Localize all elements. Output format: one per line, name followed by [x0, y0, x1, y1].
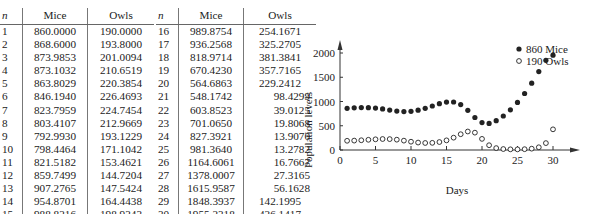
- mice-point: [416, 108, 421, 113]
- mice-point: [437, 101, 442, 106]
- y-axis-label: Population levels: [302, 92, 314, 168]
- day-cell: 29: [156, 195, 179, 208]
- owls-point: [373, 137, 378, 142]
- y-tick-label: 1500: [313, 71, 336, 83]
- legend-mice-label: 860 Mice: [526, 43, 568, 55]
- data-table-days-1-15: n Mice Owls 1860.0000190.00002868.600019…: [0, 8, 154, 214]
- owls-point: [380, 137, 385, 142]
- mice-cell: 981.3640: [179, 143, 244, 156]
- owls-cell: 201.0094: [88, 51, 155, 64]
- table-row: 11821.5182153.4621: [0, 156, 154, 169]
- owls-cell: 144.7204: [88, 169, 155, 182]
- owls-point: [529, 146, 534, 151]
- day-cell: 3: [0, 51, 23, 64]
- table-row: 3873.9853201.0094: [0, 51, 154, 64]
- day-cell: 1: [0, 25, 23, 39]
- mice-point: [494, 118, 499, 123]
- mice-point: [444, 99, 449, 104]
- mice-cell: 873.1032: [23, 64, 88, 77]
- table-row: 7823.7959224.7454: [0, 104, 154, 117]
- table-row: 301955.2318426.1417: [156, 208, 316, 214]
- mice-cell: 846.1940: [23, 90, 88, 103]
- owls-point: [544, 141, 549, 146]
- mice-cell: 827.3921: [179, 130, 244, 143]
- mice-cell: 792.9930: [23, 130, 88, 143]
- x-axis-label: Days: [446, 184, 469, 196]
- owls-point: [402, 138, 407, 143]
- owls-point: [487, 143, 492, 148]
- day-cell: 15: [0, 208, 23, 214]
- owls-point: [437, 140, 442, 145]
- day-cell: 17: [156, 38, 179, 51]
- table-row: 1860.0000190.0000: [0, 25, 154, 39]
- table-row: 15988.8216198.9343: [0, 208, 154, 214]
- mice-point: [472, 115, 477, 120]
- day-cell: 28: [156, 182, 179, 195]
- header-n: n: [0, 8, 23, 25]
- legend-owls-label: 190 Owls: [526, 55, 568, 67]
- mice-point: [373, 106, 378, 111]
- mice-cell: 868.6000: [23, 38, 88, 51]
- mice-point: [487, 121, 492, 126]
- mice-point: [451, 99, 456, 104]
- day-cell: 18: [156, 51, 179, 64]
- data-table-days-16-30: n Mice Owls 16989.8754254.167117936.2568…: [156, 8, 316, 214]
- day-cell: 8: [0, 117, 23, 130]
- mice-cell: 670.4230: [179, 64, 244, 77]
- owls-cell: 164.4438: [88, 195, 155, 208]
- day-cell: 14: [0, 195, 23, 208]
- legend: 860 Mice 190 Owls: [516, 43, 568, 67]
- header-n: n: [156, 8, 179, 25]
- day-cell: 6: [0, 90, 23, 103]
- mice-point: [401, 109, 406, 114]
- mice-cell: 859.7499: [23, 169, 88, 182]
- mice-cell: 564.6863: [179, 77, 244, 90]
- header-owls: Owls: [244, 8, 317, 25]
- owls-point: [494, 146, 499, 151]
- owls-point: [430, 140, 435, 145]
- mice-point: [430, 103, 435, 108]
- day-cell: 23: [156, 117, 179, 130]
- owls-point: [352, 138, 357, 143]
- table-row: 21548.174298.4299: [156, 90, 316, 103]
- mice-point: [515, 100, 520, 105]
- mice-point: [508, 107, 513, 112]
- mice-cell: 803.4107: [23, 117, 88, 130]
- owls-cell: 190.0000: [88, 25, 155, 39]
- x-tick-label: 0: [337, 154, 343, 166]
- mice-cell: 954.8701: [23, 195, 88, 208]
- mice-cell: 873.9853: [23, 51, 88, 64]
- owls-point: [501, 147, 506, 152]
- day-cell: 24: [156, 130, 179, 143]
- table-row: 12859.7499144.7204: [0, 169, 154, 182]
- owls-cell: 153.4621: [88, 156, 155, 169]
- mice-point: [408, 109, 413, 114]
- mice-cell: 989.8754: [179, 25, 244, 39]
- owls-point: [480, 136, 485, 141]
- owls-cell: 193.8000: [88, 38, 155, 51]
- owls-cell: 210.6519: [88, 64, 155, 77]
- table-row: 5863.8029220.3854: [0, 77, 154, 90]
- y-tick-label: 2000: [313, 47, 336, 59]
- day-cell: 2: [0, 38, 23, 51]
- mice-point: [465, 108, 470, 113]
- owls-point: [458, 132, 463, 137]
- table-row: 281615.958756.1628: [156, 182, 316, 195]
- day-cell: 7: [0, 104, 23, 117]
- owls-point: [366, 137, 371, 142]
- owls-point: [345, 138, 350, 143]
- mice-cell: 823.7959: [23, 104, 88, 117]
- owls-point: [551, 127, 556, 132]
- owls-point: [465, 129, 470, 134]
- x-axis-arrow-icon: [570, 148, 580, 153]
- mice-point: [423, 106, 428, 111]
- table-row: 18818.9714381.3841: [156, 51, 316, 64]
- table-row: 2868.6000193.8000: [0, 38, 154, 51]
- table-row: 10798.4464171.1042: [0, 143, 154, 156]
- day-cell: 27: [156, 169, 179, 182]
- legend-filled-circle-icon: [516, 46, 521, 51]
- day-cell: 5: [0, 77, 23, 90]
- table-row: 24827.392113.9070: [156, 130, 316, 143]
- mice-cell: 860.0000: [23, 25, 88, 39]
- day-cell: 19: [156, 64, 179, 77]
